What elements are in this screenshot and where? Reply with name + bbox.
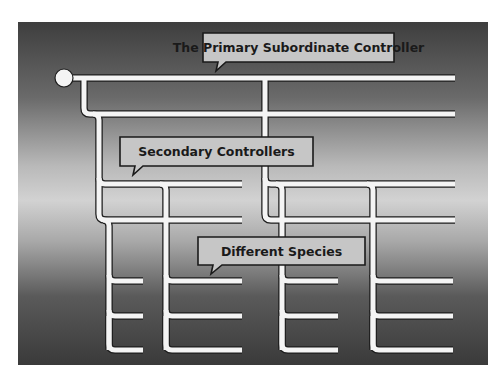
pipe-e2-branch-3-outline xyxy=(166,316,242,350)
tree-pipes-outline xyxy=(64,78,455,350)
root-node xyxy=(55,69,73,87)
pipe-e4-branch-3 xyxy=(373,316,453,350)
pipe-left-trunk-1 xyxy=(84,78,455,114)
pipe-e4-branch-3-outline xyxy=(373,316,453,350)
pipe-left-trunk-3-outline xyxy=(99,184,242,220)
pipe-e3-branch-3-outline xyxy=(282,316,338,350)
callout-secondary-label: Secondary Controllers xyxy=(138,144,294,159)
callout-primary-subordinate-controller: The Primary Subordinate Controller xyxy=(173,33,425,71)
callout-secondary-controllers: Secondary Controllers xyxy=(120,137,313,175)
callout-species-label: Different Species xyxy=(221,244,342,259)
controller-tree-diagram: The Primary Subordinate Controller Secon… xyxy=(0,0,496,390)
pipe-e1-branch-3 xyxy=(109,316,143,350)
callout-primary-label: The Primary Subordinate Controller xyxy=(173,40,425,55)
root-node-circle xyxy=(55,69,73,87)
pipe-mid-trunk-2-outline xyxy=(265,184,455,220)
pipe-e1-branch-3-outline xyxy=(109,316,143,350)
pipe-left-trunk-1-outline xyxy=(84,78,455,114)
pipe-e2-branch-3 xyxy=(166,316,242,350)
pipe-e3-branch-3 xyxy=(282,316,338,350)
tree-pipes xyxy=(64,78,455,350)
pipe-mid-trunk-2 xyxy=(265,184,455,220)
pipe-left-trunk-3 xyxy=(99,184,242,220)
